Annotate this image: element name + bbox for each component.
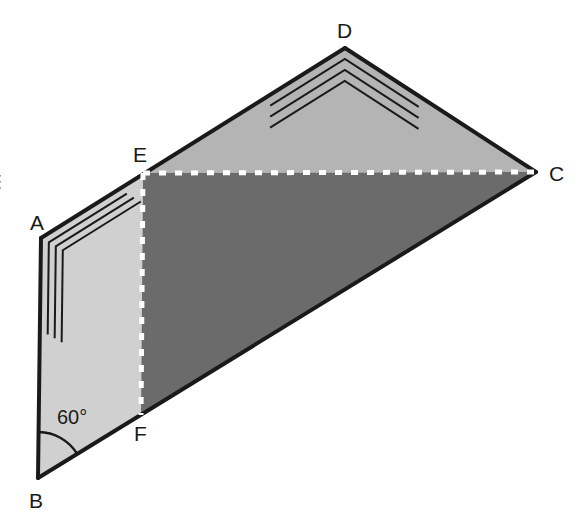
vertex-label-c: C: [549, 163, 564, 184]
vertex-label-e: E: [133, 144, 147, 165]
vertex-label-b: B: [29, 490, 43, 511]
face-abfe: [38, 173, 143, 478]
face-edc: [143, 48, 536, 173]
diagram-canvas: A B C D E F 60° E: [0, 0, 581, 523]
geometry-figure: [0, 0, 581, 523]
clipped-edge-glyph: E: [0, 172, 1, 192]
vertex-label-d: D: [337, 20, 352, 41]
vertex-label-f: F: [134, 423, 147, 444]
vertex-label-a: A: [30, 212, 44, 233]
angle-value-label-b: 60°: [57, 407, 87, 427]
